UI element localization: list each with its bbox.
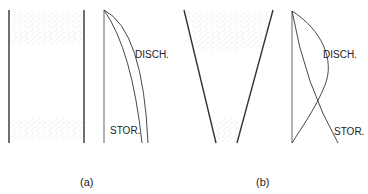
- caption-a: (a): [80, 176, 93, 188]
- vessel-b: [184, 10, 273, 143]
- stipple-bottom-a: [10, 118, 83, 140]
- curve-discharge-a: [104, 10, 148, 143]
- vessel-a: [9, 10, 84, 143]
- label-discharge-b: DISCH.: [323, 49, 357, 60]
- caption-b: (b): [256, 176, 269, 188]
- panel-b: DISCH. STOR. (b): [184, 10, 364, 188]
- plot-b: DISCH. STOR.: [292, 11, 364, 143]
- label-storage-b: STOR.: [334, 126, 364, 137]
- stipple-top-a: [10, 11, 83, 46]
- stipple-top-b: [186, 11, 272, 52]
- plot-a: DISCH. STOR.: [104, 10, 169, 143]
- stipple-bottom-b: [211, 118, 242, 142]
- panel-a: DISCH. STOR. (a): [9, 10, 169, 188]
- label-storage-a: STOR.: [110, 125, 140, 136]
- curve-storage-a: [104, 10, 142, 143]
- curve-discharge-b: [292, 11, 328, 143]
- diagram-canvas: DISCH. STOR. (a) DISCH. STOR. (b): [0, 0, 368, 194]
- label-discharge-a: DISCH.: [135, 49, 169, 60]
